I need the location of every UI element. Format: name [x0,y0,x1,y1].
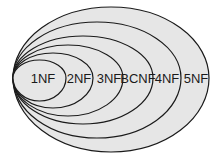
label-1nf: 1NF [31,71,56,86]
label-bcnf: BCNF [120,71,155,86]
label-3nf: 3NF [97,71,122,86]
label-5nf: 5NF [184,71,209,86]
label-4nf: 4NF [155,71,180,86]
normal-forms-diagram: 5NF4NFBCNF3NF2NF1NF [0,0,216,161]
label-2nf: 2NF [67,71,92,86]
